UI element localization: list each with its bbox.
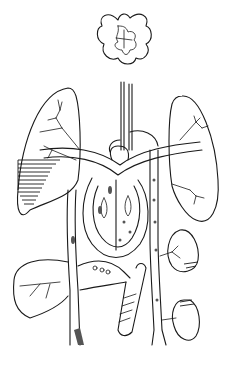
kidney-drawing [162, 300, 199, 340]
right-lung-hatching [18, 160, 60, 204]
right-lung-drawing [18, 88, 81, 215]
liver-drawing [14, 260, 68, 318]
carotid-vessels [121, 82, 132, 150]
brain-drawing [97, 14, 151, 64]
circulation-diagram [0, 0, 234, 366]
diagram-canvas [0, 0, 234, 366]
intestine-drawing [78, 261, 146, 335]
left-lung-drawing [169, 96, 218, 221]
spleen-drawing [160, 230, 198, 272]
heart-drawing [83, 178, 148, 258]
